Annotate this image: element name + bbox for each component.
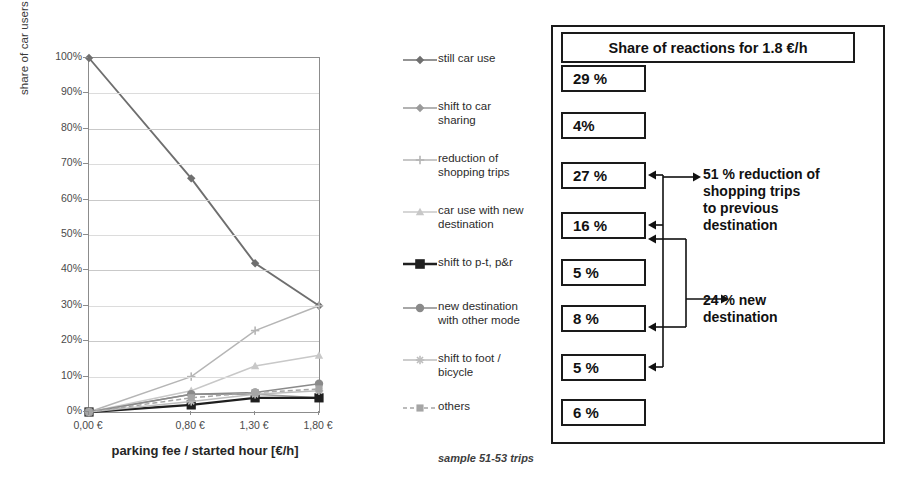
y-axis-tick-label: 100%	[36, 50, 82, 62]
gridline	[89, 93, 319, 94]
legend-marker-triangle-icon	[402, 205, 438, 219]
series-0	[85, 54, 323, 310]
y-axis-tick-mark	[83, 163, 88, 164]
y-axis-tick-mark	[83, 340, 88, 341]
legend-label: others	[438, 400, 470, 414]
legend-item[interactable]: reduction of shopping trips	[402, 152, 510, 179]
x-axis-title: parking fee / started hour [€/h]	[60, 443, 350, 458]
line-chart: share of car users for shopping [%] 0,00…	[0, 0, 400, 497]
y-axis-tick-mark	[83, 269, 88, 270]
y-axis-tick-label: 30%	[36, 298, 82, 310]
y-axis-tick-label: 80%	[36, 121, 82, 133]
legend-marker-square-small-icon	[402, 401, 438, 415]
series-3	[85, 351, 323, 415]
gridline	[89, 306, 319, 307]
legend-marker-square-icon	[402, 257, 438, 271]
y-axis-tick-label: 90%	[36, 85, 82, 97]
x-axis-tick-label: 0,00 €	[73, 419, 102, 431]
y-axis-tick-mark	[83, 128, 88, 129]
legend-label: car use with new destination	[438, 204, 524, 231]
legend-label: new destination with other mode	[438, 300, 520, 327]
y-axis-tick-label: 0%	[36, 404, 82, 416]
y-axis-tick-label: 50%	[36, 227, 82, 239]
y-axis-tick-label: 40%	[36, 262, 82, 274]
plot-area	[88, 57, 320, 413]
x-axis-tick-mark	[318, 411, 319, 415]
gridline	[89, 235, 319, 236]
legend-item[interactable]: shift to p-t, p&r	[402, 256, 513, 271]
legend-item[interactable]: still car use	[402, 52, 496, 67]
y-axis-tick-label: 70%	[36, 156, 82, 168]
x-axis-tick-label: 0,80 €	[176, 419, 205, 431]
y-axis-tick-mark	[83, 92, 88, 93]
x-axis-tick-label: 1,80 €	[303, 419, 332, 431]
legend-item[interactable]: shift to car sharing	[402, 100, 491, 127]
y-axis-tick-mark	[83, 305, 88, 306]
y-axis-tick-label: 10%	[36, 369, 82, 381]
gridline	[89, 377, 319, 378]
legend-marker-circle-icon	[402, 301, 438, 315]
legend-item[interactable]: others	[402, 400, 470, 415]
y-axis-tick-mark	[83, 376, 88, 377]
x-axis-tick-mark	[190, 411, 191, 415]
legend-label: shift to foot / bicycle	[438, 352, 501, 379]
legend-label: reduction of shopping trips	[438, 152, 510, 179]
y-axis-tick-label: 60%	[36, 192, 82, 204]
gridline	[89, 164, 319, 165]
legend-item[interactable]: new destination with other mode	[402, 300, 520, 327]
figure-root: share of car users for shopping [%] 0,00…	[0, 0, 897, 497]
gridline	[89, 200, 319, 201]
y-axis-tick-mark	[83, 234, 88, 235]
reaction-share-box: 8 %	[561, 305, 646, 332]
legend-marker-star-icon	[402, 353, 438, 367]
y-axis-tick-mark	[83, 57, 88, 58]
x-axis-ticks: 0,00 €0,80 €1,30 €1,80 €	[88, 415, 318, 435]
reaction-share-box: 27 %	[561, 162, 646, 189]
gridline	[89, 129, 319, 130]
y-axis-title: share of car users for shopping [%]	[18, 0, 30, 95]
gridline	[89, 341, 319, 342]
reaction-share-box: 29 %	[561, 65, 646, 92]
reaction-share-box: 4%	[561, 112, 646, 139]
group-annotation: 24 % new destination	[703, 292, 778, 326]
reaction-share-box: 5 %	[561, 259, 646, 286]
reaction-share-box: 5 %	[561, 354, 646, 381]
legend-item[interactable]: shift to foot / bicycle	[402, 352, 501, 379]
legend-item[interactable]: car use with new destination	[402, 204, 524, 231]
legend-marker-diamond-icon	[402, 101, 438, 115]
chart-legend: still car useshift to car sharingreducti…	[402, 52, 547, 432]
x-axis-tick-label: 1,30 €	[240, 419, 269, 431]
y-axis-tick-label: 20%	[36, 333, 82, 345]
reaction-share-box: 6 %	[561, 399, 646, 426]
legend-marker-diamond-icon	[402, 53, 438, 67]
reaction-share-box: 16 %	[561, 212, 646, 239]
legend-label: shift to car sharing	[438, 100, 491, 127]
reactions-panel: Share of reactions for 1.8 €/h 29 %4%27 …	[551, 25, 885, 444]
y-axis-tick-mark	[83, 199, 88, 200]
sample-note: sample 51-53 trips	[438, 452, 534, 464]
group-annotation: 51 % reduction of shopping trips to prev…	[703, 166, 820, 234]
x-axis-tick-mark	[254, 411, 255, 415]
legend-marker-plus-icon	[402, 153, 438, 167]
y-axis-tick-mark	[83, 411, 88, 412]
legend-label: still car use	[438, 52, 496, 66]
x-axis-tick-mark	[88, 411, 89, 415]
legend-label: shift to p-t, p&r	[438, 256, 513, 270]
gridline	[89, 270, 319, 271]
